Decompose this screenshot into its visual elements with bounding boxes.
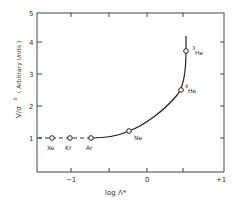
label-he4: He — [188, 87, 197, 94]
point-he4 — [179, 88, 184, 93]
label-xe: Xe — [47, 144, 55, 151]
x-tick-plus1: +1 — [216, 176, 226, 184]
chart: 5 4 3 2 1 −1 0 +1 log Λ* V/σ 3 ( Arbitra… — [0, 0, 236, 201]
x-axis-title: log Λ* — [105, 189, 127, 197]
label-kr: Kr — [65, 144, 72, 151]
svg-text:( Arbitrary Units ): ( Arbitrary Units ) — [15, 41, 23, 93]
y-axis-title: V/σ 3 ( Arbitrary Units ) — [12, 41, 23, 118]
label-he3: He — [195, 49, 204, 56]
svg-text:V/σ: V/σ — [15, 106, 23, 118]
point-he3 — [184, 49, 189, 54]
curve-series — [91, 36, 186, 138]
label-ar: Ar — [86, 144, 93, 151]
point-kr — [68, 136, 73, 141]
y-tick-2: 2 — [29, 103, 33, 111]
point-ar — [89, 136, 94, 141]
y-tick-4: 4 — [29, 39, 34, 47]
y-tick-5: 5 — [29, 10, 33, 18]
point-xe — [50, 136, 55, 141]
data-points — [50, 49, 189, 141]
point-ne — [127, 129, 132, 134]
svg-text:3: 3 — [12, 98, 18, 101]
x-tick-minus1: −1 — [66, 176, 76, 184]
y-tick-1: 1 — [29, 135, 33, 143]
y-tick-3: 3 — [29, 71, 33, 79]
x-tick-0: 0 — [145, 176, 149, 184]
label-ne: Ne — [134, 134, 142, 141]
